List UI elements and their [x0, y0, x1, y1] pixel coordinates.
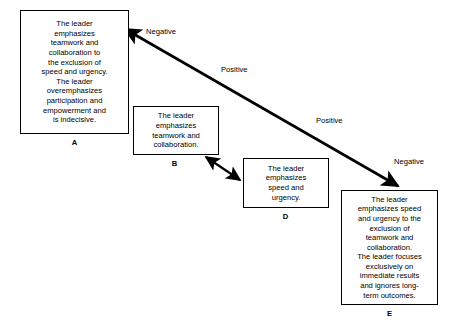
edge-label-negative-bottom-right: Negative — [394, 157, 424, 166]
concept-box-d: The leader emphasizes speed and urgency. — [243, 158, 329, 208]
concept-box-e: The leader emphasizes speed and urgency … — [341, 190, 438, 305]
diagram-canvas: The leader emphasizes teamwork and colla… — [0, 0, 452, 332]
edge-label-negative-top-left: Negative — [146, 27, 176, 36]
concept-box-a-label: A — [50, 138, 99, 147]
concept-box-e-label: E — [365, 309, 414, 318]
concept-box-b-label: B — [150, 159, 199, 168]
concept-box-e-text: The leader emphasizes speed and urgency … — [357, 195, 422, 301]
edge-label-positive-lower: Positive — [316, 116, 343, 125]
concept-box-b-text: The leader emphasizes teamwork and colla… — [152, 111, 200, 149]
concept-box-d-text: The leader emphasizes speed and urgency. — [266, 164, 307, 202]
b-d-connector-arrow — [206, 157, 240, 180]
concept-box-b: The leader emphasizes teamwork and colla… — [133, 106, 219, 155]
concept-box-a: The leader emphasizes teamwork and colla… — [20, 10, 129, 134]
concept-box-a-text: The leader emphasizes teamwork and colla… — [41, 19, 107, 125]
edge-label-positive-upper: Positive — [221, 65, 248, 74]
concept-box-d-label: D — [261, 212, 310, 221]
